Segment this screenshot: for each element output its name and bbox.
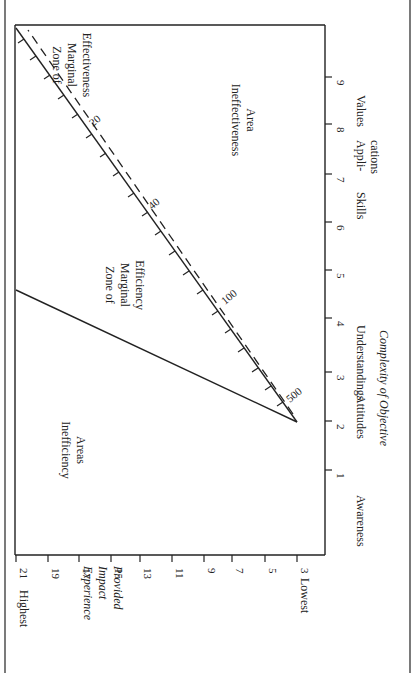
y-high-label: Highest [17,590,31,628]
x-category-applications-line1: Appli- [354,140,368,171]
y-tick-label: 21 [18,568,30,579]
region-inefficiency-line1: Inefficiency [59,421,73,479]
x-tick-label: 8 [335,127,347,133]
y-tick-label: 3 [299,568,311,574]
y-low-label: Lowest [298,578,312,614]
y-tick-label: 5 [267,568,279,574]
region-marginal-effectiveness-line1: Zone of [50,46,64,84]
y-axis-title-line2: Impact [96,565,110,600]
x-tick-label: 9 [335,80,347,86]
x-tick-label: 1 [335,473,347,479]
x-category-attitudes: Attitudes [354,395,368,439]
efficiency-boundary-line [16,290,297,422]
x-tick-label: 5 [335,273,347,279]
x-axis-ticks [325,77,332,470]
marker-label-500: 500 [284,384,305,404]
x-category-understandings: Understandings [354,325,368,401]
y-tick-label: 9 [206,568,218,574]
y-tick-label: 7 [234,568,246,574]
region-marginal-efficiency-line2: Marginal [118,263,132,307]
region-ineffectiveness-line2: Area [244,108,258,132]
marker-label-40: 40 [146,195,163,212]
x-tick-label: 2 [335,424,347,430]
x-category-skills: Skills [354,192,368,220]
x-axis-title: Complexity of Objective [377,330,391,447]
x-tick-label: 4 [335,321,347,327]
x-tick-label: 3 [335,375,347,381]
y-tick-label: 13 [142,568,154,580]
y-axis-ticks [16,555,297,562]
y-tick-label: 19 [50,568,62,580]
x-category-values: Values [354,95,368,127]
x-tick-label: 7 [335,177,347,183]
y-axis-title-line3: Provided [111,565,125,611]
x-category-awareness: Awareness [354,495,368,547]
region-ineffectiveness-line1: Ineffectiveness [229,84,243,157]
effectiveness-boundary-line [16,28,297,422]
region-marginal-efficiency-line1: Zone of [103,266,117,304]
marker-label-20: 20 [87,112,104,129]
region-marginal-efficiency-line3: Efficiency [133,260,147,310]
region-marginal-effectiveness-line2: Marginal [65,43,79,87]
chart: 21 19 17 15 13 11 9 7 5 3 Highest Lowest… [0,0,417,673]
x-category-applications-line2: cations [368,140,382,174]
x-tick-label: 6 [335,225,347,231]
marginal-effectiveness-dashed-line [28,30,293,414]
region-marginal-effectiveness-line3: Effectiveness [80,33,94,98]
region-inefficiency-line2: Areas [74,436,88,464]
marker-label-100: 100 [219,286,240,306]
y-tick-label: 11 [174,568,186,579]
y-axis-title-line1: Experience [81,565,95,621]
